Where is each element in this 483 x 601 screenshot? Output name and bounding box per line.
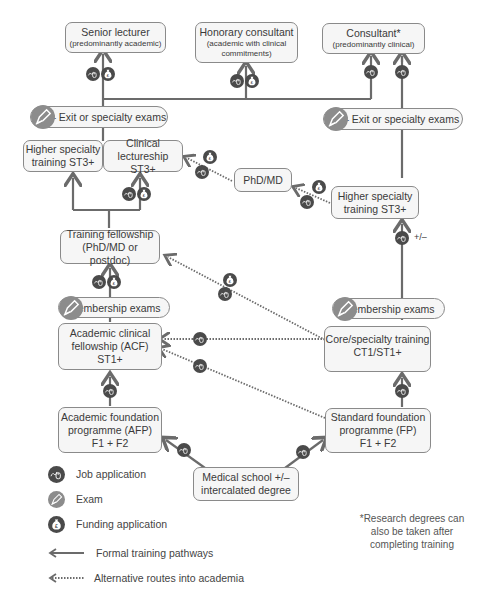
clinical-lectureship-line2: lectureship ST3+ [104,150,182,176]
consultant-sub: (predominantly clinical) [333,40,415,50]
core-training-line1: Core/specialty training [326,333,430,346]
box-higher-specialty-right: Higher specialty training ST3+ [331,186,419,219]
legend-job-application: Job application [76,468,146,480]
box-acf: Academic clinical fellowship (ACF) ST1+ [58,323,162,370]
exit-exams-left-label: +/– Exit or specialty exams [41,111,166,123]
footnote-line3: completing training [352,538,472,551]
footnote-line1: *Research degrees can [352,512,472,525]
afp-line3: F1 + F2 [92,437,128,450]
footnote-line2: also be taken after [352,525,472,538]
exit-exams-right-label: +/– Exit or specialty exams [334,113,459,125]
honorary-consultant-sub1: (academic with clinical [207,39,287,49]
phd-md-line1: PhD/MD [243,174,283,187]
fp-line1: Standard foundation [331,411,426,424]
fp-line3: F1 + F2 [360,437,396,450]
box-core-training: Core/specialty training CT1/ST1+ [324,326,431,372]
pill-membership-left: Membership exams [58,297,170,318]
pill-exit-exams-left: +/– Exit or specialty exams [30,106,168,128]
senior-lecturer-title: Senior lecturer [81,26,149,39]
core-training-line2: CT1/ST1+ [353,346,401,359]
legend-alternative-routes: Alternative routes into academia [94,572,244,584]
fp-line2: programme (FP) [339,424,416,437]
box-senior-lecturer: Senior lecturer (predominantly academic) [65,22,166,53]
higher-specialty-left-line2: training ST3+ [32,156,95,169]
training-fellowship-line2: (PhD/MD or postdoc) [61,241,159,267]
plus-minus-annotation: +/– [414,232,427,242]
legend-formal-pathways: Formal training pathways [96,547,213,559]
training-fellowship-line1: Training fellowship [67,228,154,241]
box-training-fellowship: Training fellowship (PhD/MD or postdoc) [60,230,160,264]
afp-line1: Academic foundation [61,411,159,424]
pill-membership-right: Membership exams [332,298,445,319]
clinical-lectureship-line1: Clinical [126,137,160,150]
higher-specialty-right-line1: Higher specialty [338,190,413,203]
box-higher-specialty-left: Higher specialty training ST3+ [23,140,103,172]
exam-icon [59,296,83,320]
medical-school-line2: intercalated degree [201,484,291,497]
acf-line2: fellowship (ACF) [71,340,148,353]
honorary-consultant-sub2: commitments) [221,49,271,59]
senior-lecturer-sub: (predominantly academic) [69,39,161,49]
job-application-icon [48,466,65,483]
funding-application-icon [48,516,65,533]
box-consultant: Consultant* (predominantly clinical) [322,23,425,54]
medical-school-line1: Medical school +/– [202,471,289,484]
box-fp: Standard foundation programme (FP) F1 + … [325,408,431,453]
exam-icon [31,105,55,129]
acf-line3: ST1+ [97,353,122,366]
afp-line2: programme (AFP) [68,424,152,437]
exam-icon [48,491,65,508]
legend-exam: Exam [76,493,103,505]
pill-exit-exams-right: +/– Exit or specialty exams [323,108,463,130]
higher-specialty-right-line2: training ST3+ [344,203,407,216]
exam-icon [324,107,348,131]
acf-line1: Academic clinical [70,327,151,340]
honorary-consultant-title: Honorary consultant [200,26,294,39]
box-afp: Academic foundation programme (AFP) F1 +… [58,407,162,453]
box-honorary-consultant: Honorary consultant (academic with clini… [195,22,298,63]
box-phd-md: PhD/MD [234,168,292,192]
consultant-title: Consultant* [346,27,400,40]
legend-funding-application: Funding application [76,518,167,530]
exam-icon [333,297,357,321]
box-medical-school: Medical school +/– intercalated degree [193,467,299,501]
box-clinical-lectureship: Clinical lectureship ST3+ [103,140,183,172]
higher-specialty-left-line1: Higher specialty [26,143,101,156]
footnote: *Research degrees can also be taken afte… [352,512,472,551]
